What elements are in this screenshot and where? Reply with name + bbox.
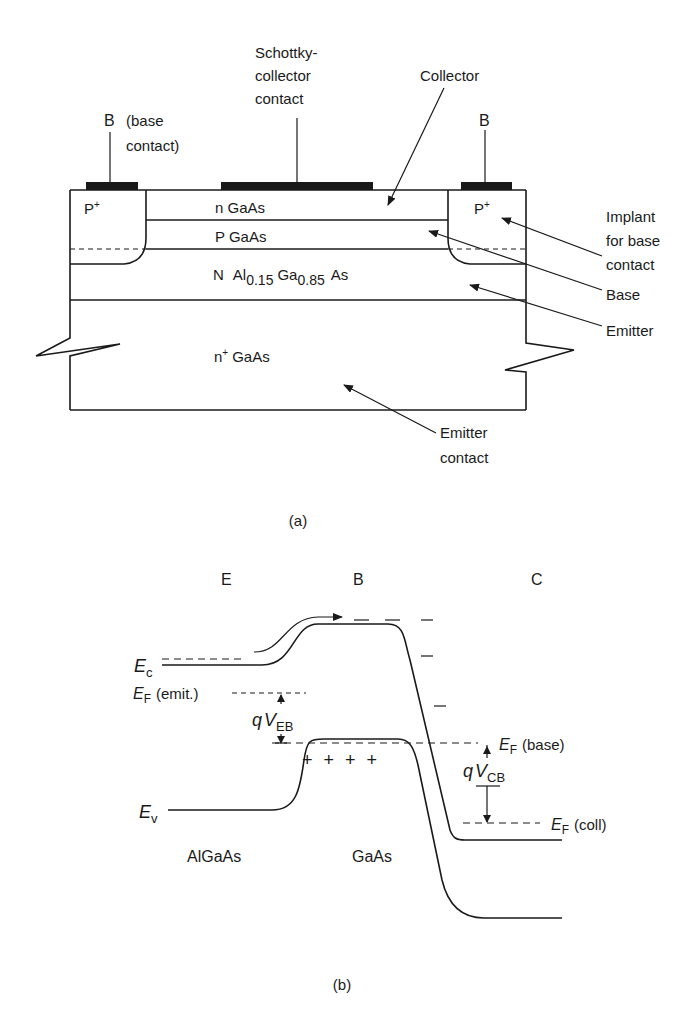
- ec-label: Ec: [134, 656, 153, 680]
- caption-b: (b): [333, 976, 351, 993]
- left-base-contact-metal: [86, 182, 138, 190]
- conduction-band: [162, 624, 562, 840]
- emitter-label: Emitter: [606, 322, 654, 339]
- ef-base-label: EF(base): [499, 736, 565, 757]
- emitter-contact-label-2: contact: [440, 449, 489, 466]
- p-gaas-label: P GaAs: [215, 228, 266, 245]
- ef-coll-label: EF(coll): [551, 816, 607, 837]
- left-base-desc-2: contact): [126, 137, 179, 154]
- left-base-desc-1: (base: [126, 112, 164, 129]
- implant-label-2: for base: [606, 232, 660, 249]
- qvcb-label: qVCB: [463, 761, 505, 785]
- left-p-plus-label: P+: [84, 199, 100, 217]
- device-cross-section: P+ P+ n GaAs P GaAs NAl0.15Ga0.85As n+Ga…: [36, 44, 660, 529]
- implant-label-1: Implant: [606, 208, 656, 225]
- region-B-label: B: [353, 571, 364, 588]
- gaas-region-label: GaAs: [352, 848, 392, 865]
- n-gaas-label: n GaAs: [215, 199, 265, 216]
- substrate-label: n+GaAs: [214, 347, 270, 365]
- base-arrow: [429, 231, 602, 290]
- schottky-label-3: contact: [255, 90, 304, 107]
- left-implant-boundary: [70, 190, 146, 264]
- right-base-contact-metal: [461, 182, 512, 190]
- hbt-figure: P+ P+ n GaAs P GaAs NAl0.15Ga0.85As n+Ga…: [0, 0, 699, 1018]
- implant-arrow: [502, 218, 602, 256]
- emitter-contact-label-1: Emitter: [440, 424, 488, 441]
- electron-injection-arrow: [254, 617, 342, 652]
- band-diagram: E B C Ec EF(emit.): [133, 571, 607, 993]
- schottky-label-2: collector: [255, 67, 311, 84]
- implant-label-3: contact: [606, 256, 655, 273]
- algaas-region-label: AlGaAs: [187, 848, 241, 865]
- region-E-label: E: [221, 571, 232, 588]
- collector-label: Collector: [420, 67, 479, 84]
- emitter-contact-arrow: [344, 385, 436, 433]
- right-p-plus-label: P+: [474, 199, 490, 217]
- right-base-B-label: B: [479, 112, 490, 129]
- qveb-label: qVEB: [252, 710, 293, 734]
- caption-a: (a): [289, 512, 307, 529]
- left-base-B-label: B: [104, 112, 115, 129]
- holes-label: + + + +: [302, 750, 380, 770]
- algaas-emitter-label: NAl0.15Ga0.85As: [213, 266, 348, 288]
- collector-arrow: [388, 88, 444, 205]
- ef-emit-label: EF(emit.): [133, 685, 199, 706]
- region-C-label: C: [531, 571, 543, 588]
- ev-label: Ev: [139, 802, 158, 826]
- emitter-arrow: [470, 285, 602, 326]
- base-label: Base: [606, 286, 640, 303]
- schottky-collector-contact-metal: [221, 182, 373, 190]
- schottky-label-1: Schottky-: [255, 44, 318, 61]
